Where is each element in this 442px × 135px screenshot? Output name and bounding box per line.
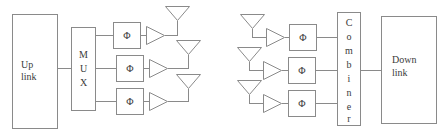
antenna-rx-2[interactable]: [238, 48, 262, 62]
mux-letter-x: X: [80, 77, 88, 88]
phase-shifter-rx-3-label: Φ: [298, 98, 305, 109]
combiner-letter-m: m: [345, 45, 353, 56]
phase-shifter-tx-1[interactable]: Φ: [114, 23, 141, 49]
amplifier-tx-1[interactable]: [147, 27, 165, 45]
uplink-transmit-chain: Up link M U X Φ: [13, 7, 201, 129]
antenna-rx-1[interactable]: [241, 15, 265, 29]
combiner-letter-i: i: [348, 73, 351, 84]
phase-shifter-rx-2[interactable]: Φ: [289, 58, 316, 84]
down-link-block[interactable]: Down link: [382, 17, 437, 124]
up-link-label-line2: link: [21, 71, 37, 82]
phase-shifter-rx-3[interactable]: Φ: [289, 91, 316, 117]
mux-letter-m: M: [79, 49, 88, 60]
combiner-block[interactable]: C o m b i n e r: [338, 13, 361, 126]
combiner-letter-o: o: [347, 31, 352, 42]
antenna-tx-2[interactable]: [177, 41, 201, 55]
rx-branch-1: Φ: [241, 15, 338, 51]
tx-branch-3: Φ: [96, 75, 201, 115]
mux-block[interactable]: M U X: [72, 28, 96, 111]
phase-shifter-rx-1[interactable]: Φ: [290, 25, 317, 51]
amplifier-rx-3[interactable]: [264, 95, 282, 113]
mux-letter-u: U: [80, 63, 88, 74]
phase-shifter-rx-2-label: Φ: [298, 65, 305, 76]
tx-branch-1: Φ: [96, 7, 190, 49]
amplifier-rx-2[interactable]: [264, 62, 282, 80]
combiner-letter-e: e: [347, 101, 352, 112]
phase-shifter-tx-2[interactable]: Φ: [117, 56, 144, 82]
antenna-tx-1[interactable]: [166, 7, 190, 21]
phase-shifter-rx-1-label: Φ: [299, 32, 306, 43]
rx-branch-2: Φ: [238, 48, 338, 84]
antenna-rx-3[interactable]: [238, 81, 262, 95]
combiner-letter-b: b: [347, 59, 352, 70]
amplifier-tx-3[interactable]: [150, 93, 168, 111]
phase-shifter-tx-1-label: Φ: [123, 30, 130, 41]
rx-branch-3: Φ: [238, 81, 338, 117]
diagram-canvas: Up link M U X Φ: [0, 0, 442, 135]
combiner-letter-n: n: [347, 87, 352, 98]
down-link-label-line2: link: [392, 67, 408, 78]
amplifier-rx-1[interactable]: [267, 29, 285, 47]
combiner-letter-c: C: [346, 17, 353, 28]
antenna-tx-3[interactable]: [177, 75, 201, 89]
block-diagram: Up link M U X Φ: [0, 0, 442, 135]
phase-shifter-tx-3[interactable]: Φ: [117, 89, 144, 115]
phase-shifter-tx-2-label: Φ: [126, 63, 133, 74]
up-link-block[interactable]: Up link: [13, 15, 58, 129]
phase-shifter-tx-3-label: Φ: [126, 96, 133, 107]
downlink-receive-chain: Φ Φ: [238, 13, 437, 126]
down-link-box[interactable]: [382, 17, 437, 124]
down-link-label-line1: Down: [392, 54, 416, 65]
amplifier-tx-2[interactable]: [150, 60, 168, 78]
up-link-label-line1: Up: [21, 59, 33, 70]
